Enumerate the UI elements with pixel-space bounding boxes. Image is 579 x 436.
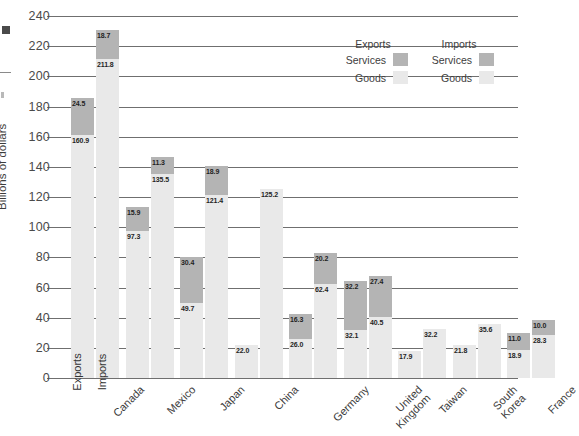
value-label-goods: 62.4 (315, 286, 328, 293)
y-tick-label: 0 (0, 371, 50, 385)
inline-bar-label-exports: Exports (71, 353, 83, 390)
bar-canada-exports: 24.5160.9Exports (71, 98, 94, 378)
bar-mexico-imports: 11.3135.5 (151, 157, 174, 378)
bar-japan-imports: 18.9121.4 (205, 166, 228, 378)
legend-label-imports-goods: Goods (416, 72, 479, 84)
y-tick-label: 180 (0, 100, 50, 114)
value-label-services: 10.0 (533, 322, 546, 329)
bar-france-imports: 10.028.3 (532, 320, 555, 378)
chart-legend: Exports Imports Services Services Goods … (330, 38, 502, 89)
legend-heading-imports: Imports (416, 38, 502, 50)
value-label-goods: 40.5 (370, 319, 383, 326)
bar-taiwan-imports: 32.2 (423, 329, 446, 378)
bar-japan-exports: 30.449.7 (180, 257, 203, 378)
bar-united-kingdom-exports: 32.232.1 (344, 281, 367, 378)
legend-exports-services: Services (330, 53, 416, 66)
bar-germany-exports: 16.326.0 (289, 314, 312, 378)
x-axis-line (56, 378, 518, 379)
value-label-services: 11.0 (508, 335, 521, 342)
value-label-services: 16.3 (290, 316, 303, 323)
legend-swatch-exports-services (393, 53, 408, 66)
value-label-goods: 18.9 (508, 352, 521, 359)
y-tick-label: 200 (0, 69, 50, 83)
value-label-services: 11.3 (152, 159, 165, 166)
x-axis-label-japan: Japan (218, 384, 248, 414)
x-axis-label-mexico: Mexico (165, 384, 198, 417)
value-label-goods: 160.9 (72, 137, 89, 144)
value-label-goods: 17.9 (399, 353, 412, 360)
y-tick-label: 100 (0, 220, 50, 234)
segment-goods (151, 174, 174, 378)
value-label-goods: 32.2 (424, 331, 437, 338)
x-axis-label-south-korea: SouthKorea (491, 384, 529, 422)
value-label-goods: 28.3 (533, 337, 546, 344)
segment-goods (369, 317, 392, 378)
value-label-goods: 32.1 (345, 332, 358, 339)
y-tick-label: 240 (0, 9, 50, 23)
value-label-services: 20.2 (315, 255, 328, 262)
value-label-services: 24.5 (72, 100, 85, 107)
x-axis-label-germany: Germany (331, 384, 371, 424)
legend-imports-goods: Goods (416, 71, 502, 84)
value-label-goods: 26.0 (290, 341, 303, 348)
x-axis-label-united-kingdom: UnitedKingdom (386, 384, 433, 431)
segment-goods (314, 284, 337, 378)
bar-south-korea-imports: 35.6 (478, 324, 501, 378)
gridline (56, 137, 518, 138)
value-label-goods: 21.8 (454, 347, 467, 354)
x-axis-label-france: France (546, 384, 579, 417)
segment-goods (180, 303, 203, 378)
legend-heading-exports: Exports (330, 38, 416, 50)
value-label-goods: 49.7 (181, 305, 194, 312)
legend-label-exports-services: Services (330, 54, 393, 66)
inline-bar-label-imports: Imports (96, 354, 108, 391)
bar-france-exports: 11.018.9 (507, 333, 530, 378)
segment-goods (71, 135, 94, 378)
x-axis-label-china: China (272, 384, 301, 413)
value-label-goods: 125.2 (261, 191, 278, 198)
y-tick-label: 160 (0, 130, 50, 144)
x-axis-label-taiwan: Taiwan (437, 384, 470, 417)
gridline (56, 197, 518, 198)
legend-exports-goods: Goods (330, 71, 416, 84)
bar-mexico-exports: 15.997.3 (126, 207, 149, 378)
legend-swatch-exports-goods (393, 71, 408, 84)
bar-china-imports: 125.2 (260, 189, 283, 378)
segment-goods (96, 59, 119, 378)
segment-goods (205, 195, 228, 378)
bar-taiwan-exports: 17.9 (398, 351, 421, 378)
bar-south-korea-exports: 21.8 (453, 345, 476, 378)
y-tick-label: 20 (0, 341, 50, 355)
legend-swatch-imports-services (479, 53, 494, 66)
segment-goods (126, 231, 149, 378)
gridline (56, 107, 518, 108)
bar-canada-imports: 18.7211.8Imports (96, 30, 119, 378)
legend-swatch-imports-goods (479, 71, 494, 84)
value-label-goods: 35.6 (479, 326, 492, 333)
value-label-goods: 211.8 (97, 61, 114, 68)
gridline (56, 167, 518, 168)
bar-united-kingdom-imports: 27.440.5 (369, 276, 392, 378)
value-label-services: 27.4 (370, 278, 383, 285)
y-tick-label: 120 (0, 190, 50, 204)
value-label-services: 30.4 (181, 259, 194, 266)
y-tick-label: 220 (0, 39, 50, 53)
legend-label-imports-services: Services (416, 54, 479, 66)
legend-row-services: Services Services (330, 53, 502, 66)
y-tick-label: 60 (0, 281, 50, 295)
bar-china-exports: 22.0 (235, 345, 258, 378)
y-tick-label: 140 (0, 160, 50, 174)
bar-germany-imports: 20.262.4 (314, 253, 337, 378)
y-tick-label: 80 (0, 250, 50, 264)
value-label-services: 18.9 (206, 168, 219, 175)
value-label-goods: 135.5 (152, 176, 169, 183)
value-label-goods: 97.3 (127, 233, 140, 240)
value-label-goods: 121.4 (206, 197, 223, 204)
x-axis-label-canada: Canada (111, 384, 147, 420)
legend-imports-services: Services (416, 53, 502, 66)
segment-goods (260, 189, 283, 378)
scan-artifact-square (2, 26, 10, 34)
gridline (56, 16, 518, 17)
value-label-services: 18.7 (97, 32, 110, 39)
